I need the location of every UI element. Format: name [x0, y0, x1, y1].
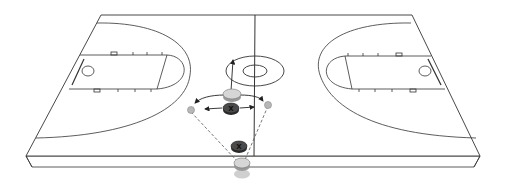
court-svg: X X — [0, 0, 506, 188]
ball-left — [188, 107, 195, 114]
defender-top-label: X — [228, 105, 234, 113]
ball-right — [265, 102, 272, 109]
basketball-court-diagram: X X — [0, 0, 506, 188]
court-surface — [26, 15, 480, 156]
court-edge — [26, 156, 480, 167]
offense-player-bottom — [234, 158, 250, 179]
defender-top: X — [223, 103, 239, 115]
defender-bottom: X — [231, 141, 247, 153]
defender-bottom-label: X — [236, 143, 242, 151]
offense-player-top — [223, 89, 241, 102]
